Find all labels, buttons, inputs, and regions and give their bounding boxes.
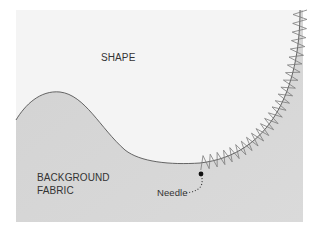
- background-fabric-label-line1: BACKGROUND: [37, 172, 110, 184]
- background-fabric-label-line2: FABRIC: [37, 185, 74, 197]
- needle-dot: [199, 172, 204, 177]
- shape-label: SHAPE: [101, 52, 135, 64]
- needle-label: Needle: [157, 187, 188, 199]
